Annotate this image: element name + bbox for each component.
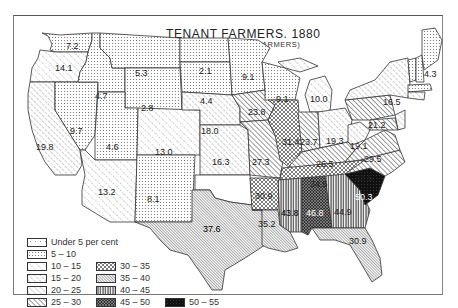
label-west-virginia: 19.1 [350, 141, 368, 151]
legend-swatch-icon [27, 274, 47, 283]
label-new-mexico: 8.1 [147, 194, 160, 204]
legend-item-10-15: 10 – 15 [27, 261, 81, 271]
state-new-mexico [135, 155, 195, 222]
label-kansas: 16.3 [212, 157, 230, 167]
label-alabama: 46.8 [306, 208, 324, 218]
legend-item-50-55: 50 – 55 [165, 297, 219, 307]
legend-swatch-icon [27, 286, 47, 295]
label-oregon: 14.1 [55, 63, 73, 73]
state-north-dakota [180, 38, 230, 62]
legend-item-40-45: 40 – 45 [96, 285, 150, 295]
legend-swatch-icon [27, 250, 47, 259]
label-nevada: 9.7 [70, 126, 83, 136]
legend-item-30-35: 30 – 35 [96, 261, 150, 271]
label-wyoming: 2.8 [141, 103, 154, 113]
label-tennessee: 34.5 [310, 179, 328, 189]
label-illinois: 31.4 [282, 137, 300, 147]
label-louisiana: 35.2 [258, 219, 276, 229]
label-south-carolina: 50.3 [355, 192, 373, 202]
label-south-dakota: 4.4 [200, 96, 213, 106]
state-florida [312, 228, 382, 282]
label-wisconsin: 9.1 [276, 94, 289, 104]
legend-item-15-20: 15 – 20 [27, 273, 81, 283]
label-mississippi: 43.8 [281, 208, 299, 218]
state-montana [100, 33, 180, 68]
label-virginia: 29.5 [364, 154, 382, 164]
label-pennsylvania: 21.2 [368, 120, 386, 130]
label-texas: 37.6 [203, 224, 221, 234]
state-massachusetts [408, 84, 432, 92]
label-kentucky: 26.5 [316, 159, 334, 169]
label-utah: 4.6 [106, 142, 119, 152]
legend-item-5-10: 5 – 10 [27, 249, 76, 259]
label-missouri: 27.3 [252, 157, 270, 167]
label-montana: 5.3 [135, 68, 148, 78]
label-maine: 4.3 [424, 69, 437, 79]
state-arizona [80, 150, 137, 222]
label-nebraska: 18.0 [201, 126, 219, 136]
label-colorado: 13.0 [155, 147, 173, 157]
legend-item-20-25: 20 – 25 [27, 285, 81, 295]
label-arizona: 13.2 [98, 187, 116, 197]
legend-swatch-icon [96, 262, 116, 271]
legend-swatch-icon [27, 262, 47, 271]
state-new-york [345, 58, 410, 100]
legend-item-under-5: Under 5 per cent [27, 237, 118, 247]
label-minnesota: 9.1 [242, 72, 255, 82]
legend-swatch-icon [27, 298, 47, 307]
label-ohio: 19.3 [326, 136, 344, 146]
state-mississippi [278, 178, 302, 232]
legend-swatch-icon [96, 286, 116, 295]
label-california: 19.8 [36, 142, 54, 152]
state-connecticut-ri [408, 92, 425, 100]
label-michigan: 10.0 [310, 94, 328, 104]
label-iowa: 23.8 [248, 107, 266, 117]
label-washington: 7.2 [66, 41, 79, 51]
label-florida: 30.9 [349, 236, 367, 246]
legend-item-25-30: 25 – 30 [27, 297, 81, 307]
label-new-york: 16.5 [383, 97, 401, 107]
legend-item-35-40: 35 – 40 [96, 273, 150, 283]
label-north-dakota: 2.1 [199, 66, 212, 76]
legend-item-45-50: 45 – 50 [96, 297, 150, 307]
legend-swatch-icon [96, 298, 116, 307]
label-north-carolina: 33.5 [355, 173, 373, 183]
label-indiana: 23.7 [300, 137, 318, 147]
label-idaho: 4.7 [95, 91, 108, 101]
legend-swatch-icon [96, 274, 116, 283]
label-georgia: 44.9 [334, 207, 352, 217]
label-arkansas: 30.9 [255, 191, 273, 201]
state-maine [422, 28, 442, 70]
legend-swatch-icon [27, 238, 47, 247]
legend-swatch-icon [165, 298, 185, 307]
